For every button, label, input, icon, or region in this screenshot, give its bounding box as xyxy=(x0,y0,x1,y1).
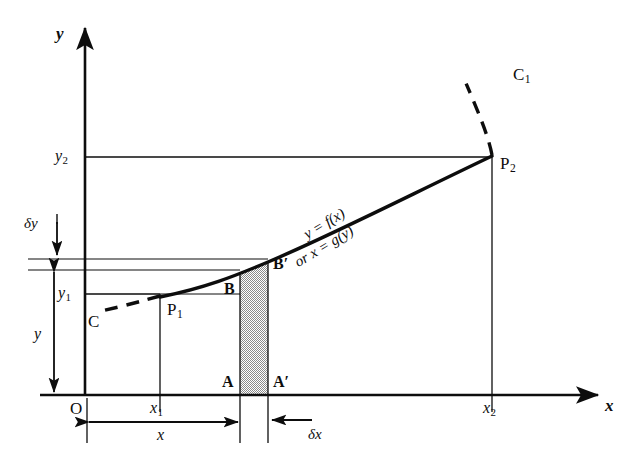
y-tick-label-y2: y2 xyxy=(55,148,68,166)
strip-label-a-prime: A′ xyxy=(273,374,289,390)
x-tick-label-x2: x2 xyxy=(483,400,496,418)
x-extent-label: x xyxy=(157,427,164,443)
point-label-p2: P2 xyxy=(500,155,516,174)
x-tick-label-x1: x1 xyxy=(150,400,163,418)
curve-dashed-extension-to-c xyxy=(97,296,160,312)
strip-label-b: B xyxy=(224,281,235,297)
y-tick-label-y1: y1 xyxy=(58,285,71,303)
figure-canvas: y x O y2 y1 x1 x2 P1 P2 C C1 B B′ A A′ xyxy=(0,0,629,462)
curve-dashed-extension-to-c1 xyxy=(456,84,503,155)
point-label-c1: C1 xyxy=(513,66,531,85)
point-label-c: C xyxy=(88,313,100,332)
delta-x-label: δx xyxy=(308,427,322,442)
y-axis-label: y xyxy=(56,25,64,42)
point-label-p1: P1 xyxy=(167,301,183,320)
origin-label: O xyxy=(70,400,82,417)
strip-label-b-prime: B′ xyxy=(273,256,288,272)
delta-y-label: δy xyxy=(24,216,38,231)
y-extent-label: y xyxy=(34,326,41,342)
x-axis-label: x xyxy=(605,397,614,414)
elemental-strip-shaded-region xyxy=(240,262,268,395)
strip-label-a: A xyxy=(222,374,234,390)
